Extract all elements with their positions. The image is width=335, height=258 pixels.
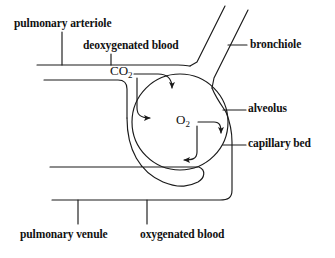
- co2-subscript: 2: [128, 70, 133, 80]
- bronchiole-tube: [190, 6, 248, 88]
- label-pulmonary-venule: pulmonary venule: [20, 229, 108, 241]
- co2-text: CO: [110, 63, 128, 78]
- o2-arrow-upper: [198, 122, 221, 133]
- label-deoxygenated-blood: deoxygenated blood: [83, 40, 179, 52]
- diagram-canvas: pulmonary arteriole deoxygenated blood b…: [0, 0, 335, 258]
- capillary-inner-wall: [50, 118, 204, 186]
- o2-subscript: 2: [185, 119, 190, 129]
- leader-lines: [62, 32, 247, 224]
- o2-text: O: [176, 112, 185, 127]
- capillary-outer-wall: [52, 112, 232, 200]
- label-pulmonary-arteriole: pulmonary arteriole: [14, 18, 111, 30]
- label-alveolus: alveolus: [248, 103, 287, 115]
- arteriole-lower-wall: [44, 80, 127, 118]
- label-oxygenated-blood: oxygenated blood: [140, 229, 224, 241]
- label-bronchiole: bronchiole: [250, 39, 301, 51]
- label-carbon-dioxide: CO2: [110, 64, 133, 77]
- o2-arrow-curve-helper: [176, 128, 186, 158]
- o2-diffusion-arrows: [176, 122, 221, 160]
- label-oxygen: O2: [176, 113, 190, 126]
- co2-arrow-upper: [134, 74, 172, 88]
- o2-arrow-lower: [184, 126, 197, 160]
- label-capillary-bed: capillary bed: [248, 138, 311, 150]
- bronchiole-alveolus-junction: [212, 88, 226, 112]
